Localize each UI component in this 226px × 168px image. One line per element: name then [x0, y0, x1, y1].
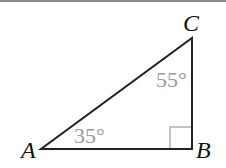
vertex-label-b: B — [196, 137, 211, 163]
right-angle-marker — [170, 127, 192, 149]
angle-label-c: 55° — [156, 67, 187, 92]
triangle-diagram: A B C 55° 35° — [0, 0, 226, 168]
angle-label-a: 35° — [74, 123, 105, 148]
triangle-abc — [41, 38, 192, 149]
vertex-label-c: C — [183, 10, 200, 36]
vertex-label-a: A — [19, 137, 36, 163]
triangle-figure: A B C 55° 35° — [0, 0, 226, 168]
